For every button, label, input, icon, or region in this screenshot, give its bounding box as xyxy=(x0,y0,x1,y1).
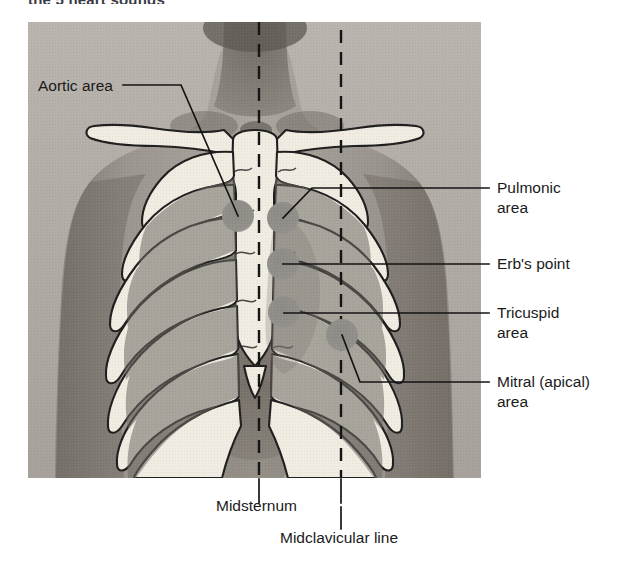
label-mitral-apical-area-line1: Mitral (apical) xyxy=(497,372,590,391)
label-pulmonic-area-line2: area xyxy=(497,198,528,217)
figure-root: the 5 heart sounds xyxy=(0,0,633,571)
label-tricuspid-area-line2: area xyxy=(497,323,528,342)
label-aortic-area: Aortic area xyxy=(38,76,113,95)
label-midsternum: Midsternum xyxy=(216,496,297,515)
label-tricuspid-area-line1: Tricuspid xyxy=(497,303,559,322)
label-erbs-point: Erb's point xyxy=(497,254,570,273)
label-midclavicular-line: Midclavicular line xyxy=(280,528,398,547)
figure-title-clipped: the 5 heart sounds xyxy=(28,0,358,4)
label-mitral-apical-area-line2: area xyxy=(497,392,528,411)
figure-title-text: the 5 heart sounds xyxy=(28,0,358,4)
label-pulmonic-area-line1: Pulmonic xyxy=(497,178,561,197)
